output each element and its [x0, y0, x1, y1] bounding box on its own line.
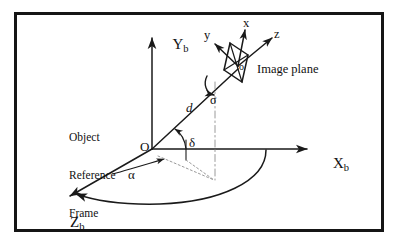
- axis-label-Xb-sub: b: [344, 162, 349, 173]
- elevation-angle-arc: [175, 129, 186, 149]
- camera-axis-label-y: y: [204, 29, 210, 42]
- caption-line-2: Reference: [69, 169, 116, 182]
- camera-axis-label-z: z: [274, 28, 280, 41]
- axis-label-Yb-base: Y: [172, 36, 183, 52]
- axis-label-Yb: Yb: [158, 22, 189, 69]
- camera-axis-label-x: x: [243, 17, 249, 30]
- camera-axis-y: [215, 44, 238, 66]
- angle-label-delta: δ: [189, 136, 195, 149]
- angle-label-sigma: σ: [210, 94, 216, 106]
- axis-label-Yb-sub: b: [183, 43, 188, 54]
- caption-line-3: Frame: [69, 207, 116, 220]
- image-plane-label: Image plane: [257, 63, 318, 76]
- diagram-canvas: Yb Xb Zb x y z o Image plane O d δ α σ O…: [0, 0, 399, 246]
- axis-label-Xb: Xb: [318, 141, 349, 188]
- angle-label-alpha: α: [128, 168, 135, 181]
- object-frame-origin-label: O: [140, 140, 149, 153]
- image-plane-origin-label: o: [239, 62, 244, 72]
- caption-line-1: Object: [69, 131, 116, 144]
- distance-label-d: d: [186, 101, 193, 114]
- object-reference-frame-caption: Object Reference Frame: [69, 106, 116, 245]
- axis-label-Xb-base: X: [333, 155, 344, 171]
